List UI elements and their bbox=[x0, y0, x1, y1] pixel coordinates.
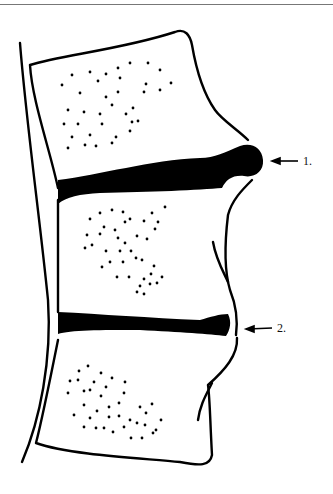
vertebra-middle bbox=[58, 180, 252, 335]
vertebra-lower bbox=[36, 338, 237, 464]
vertebrae-diagram bbox=[0, 0, 333, 494]
label-2: 2. bbox=[277, 321, 286, 336]
anterior-ligament-line bbox=[20, 43, 49, 462]
disc-upper-herniation bbox=[58, 145, 263, 204]
disc-lower bbox=[58, 312, 230, 336]
label-1: 1. bbox=[303, 154, 312, 169]
bone-texture-dots bbox=[61, 62, 173, 440]
